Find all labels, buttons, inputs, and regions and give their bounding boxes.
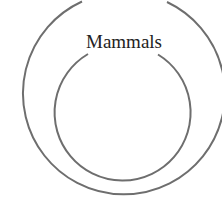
inner-circle (55, 54, 191, 181)
outer-circle-label: Mammals (86, 31, 162, 52)
nested-circles-diagram: Mammals (0, 0, 222, 207)
